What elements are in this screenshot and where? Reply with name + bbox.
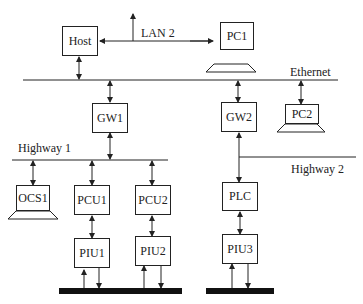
highway1-label: Highway 1 [18, 141, 71, 156]
ethernet-label: Ethernet [290, 65, 331, 80]
piu1-node: PIU1 [74, 238, 110, 268]
lan2-label: LAN 2 [141, 26, 175, 41]
gw2-node: GW2 [221, 102, 257, 132]
field-bus-2 [206, 288, 274, 294]
field-bus-1 [59, 288, 182, 294]
host-node: Host [62, 26, 98, 56]
pcu2-node: PCU2 [135, 185, 171, 215]
network-diagram: Host LAN 2 PC1 Ethernet GW1 GW2 PC2 High… [0, 0, 363, 304]
pcu1-node: PCU1 [74, 185, 110, 215]
plc-node: PLC [222, 182, 258, 211]
pc2-keyboard [277, 124, 325, 132]
piu2-node: PIU2 [135, 236, 171, 266]
ocs1-keyboard [8, 211, 58, 219]
piu3-node: PIU3 [222, 234, 258, 264]
ocs1-node: OCS1 [16, 185, 50, 211]
highway2-label: Highway 2 [291, 162, 344, 177]
pc1-keyboard [206, 64, 256, 72]
gw1-node: GW1 [92, 103, 128, 133]
pc1-node: PC1 [220, 22, 254, 50]
pc2-node: PC2 [285, 104, 319, 124]
